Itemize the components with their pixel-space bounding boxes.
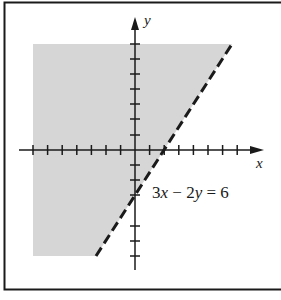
y-axis-label: y <box>142 12 151 28</box>
equation-label: 3x − 2y = 6 <box>152 183 229 202</box>
x-axis-arrow-icon <box>250 146 264 154</box>
y-axis-arrow-icon <box>131 17 139 30</box>
inequality-graph: x y 3x − 2y = 6 <box>0 0 281 300</box>
x-axis-label: x <box>255 155 263 171</box>
